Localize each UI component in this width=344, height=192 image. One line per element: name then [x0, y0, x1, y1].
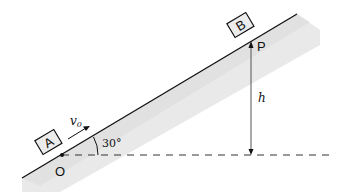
height-arrowhead-down-icon: [249, 149, 254, 155]
angle-label: 30°: [102, 137, 122, 150]
velocity-arrowhead-icon: [83, 126, 90, 131]
block-b: B: [227, 12, 254, 37]
origin-point: [60, 153, 64, 157]
height-label: h: [258, 91, 266, 105]
incline-surface: [22, 14, 297, 178]
velocity-label: v0: [70, 114, 82, 129]
block-a: A: [35, 129, 62, 154]
origin-label: O: [55, 164, 65, 179]
point-p-label: P: [257, 39, 266, 54]
velocity-arrow: [68, 128, 86, 139]
incline-diagram: 30° A O v0 B P h: [0, 0, 344, 192]
